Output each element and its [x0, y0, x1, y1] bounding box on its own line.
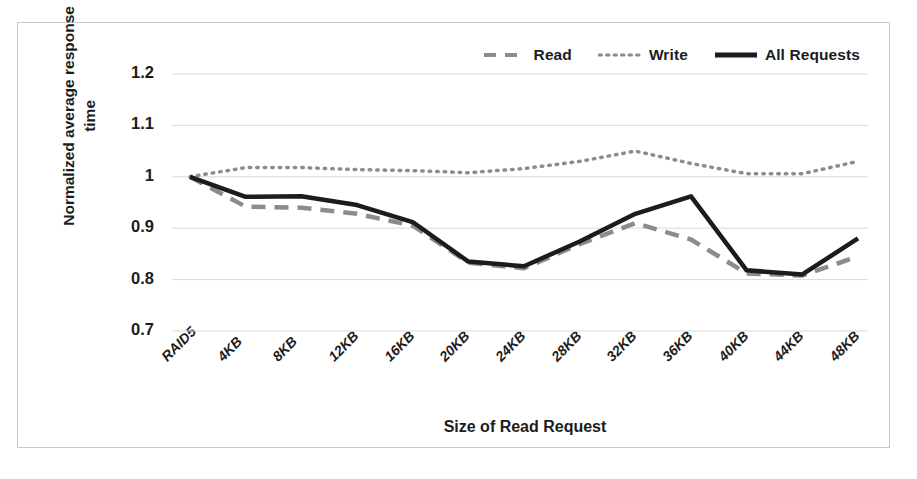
legend-item-all-requests[interactable]: All Requests [714, 46, 860, 64]
x-axis-tick-24kb: 24KB [492, 328, 529, 365]
x-axis-tick-40kb: 40KB [715, 328, 752, 365]
y-axis-title-line1: Normalized average response [59, 0, 80, 256]
x-axis-tick-32kb: 32KB [603, 328, 640, 365]
legend-swatch-dashed-icon [483, 49, 527, 61]
x-axis-tick-28kb: 28KB [548, 328, 585, 365]
y-axis-title: Normalized average response time [59, 0, 101, 256]
x-axis-title: Size of Read Request [190, 418, 860, 436]
x-axis-tick-16kb: 16KB [381, 328, 418, 365]
x-axis-tick-48kb: 48KB [826, 328, 863, 365]
y-axis-tick-1.1: 1.1 [98, 114, 154, 133]
series-line-all-requests [190, 177, 858, 275]
legend-item-read[interactable]: Read [483, 46, 572, 64]
x-axis-tick-raid5: RAID5 [158, 323, 199, 364]
y-axis-tick-1.2: 1.2 [98, 63, 154, 82]
y-axis-tick-0.9: 0.9 [98, 217, 154, 236]
line-chart: Normalized average response time Read Wr… [0, 0, 917, 479]
series-line-write [190, 151, 858, 177]
legend-label-read: Read [534, 46, 572, 64]
x-axis-tick-44kb: 44KB [770, 328, 807, 365]
y-axis-tick-0.7: 0.7 [98, 320, 154, 339]
y-axis-tick-0.8: 0.8 [98, 269, 154, 288]
legend-swatch-dotted-icon [598, 49, 642, 61]
legend-label-write: Write [649, 46, 688, 64]
legend-swatch-solid-icon [714, 49, 758, 61]
x-axis-tick-8kb: 8KB [269, 333, 300, 364]
x-axis-tick-36kb: 36KB [659, 328, 696, 365]
series-line-read [190, 177, 858, 276]
chart-legend: Read Write All Requests [430, 40, 860, 70]
y-axis-tick-1: 1 [98, 166, 154, 185]
x-axis-tick-12kb: 12KB [325, 328, 362, 365]
x-axis-tick-4kb: 4KB [214, 333, 245, 364]
legend-item-write[interactable]: Write [598, 46, 688, 64]
legend-label-all-requests: All Requests [765, 46, 860, 64]
x-axis-tick-20kb: 20KB [436, 328, 473, 365]
